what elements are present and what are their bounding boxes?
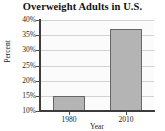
gridline	[40, 20, 154, 21]
y-axis-tick-label: 30%	[8, 46, 36, 54]
y-axis-tick-label: 15%	[8, 92, 36, 100]
y-axis-tick-label: 10%	[8, 107, 36, 115]
x-axis-spine	[39, 110, 155, 112]
y-axis-tick-label: 25%	[8, 62, 36, 70]
bar	[53, 96, 85, 111]
bar	[110, 29, 142, 111]
y-axis-tick-mark	[36, 111, 40, 112]
bar-chart-figure: Overweight Adults in U.S. Percent 10%15%…	[0, 0, 165, 131]
y-axis-tick-mark	[36, 96, 40, 97]
y-axis-tick-mark	[36, 81, 40, 82]
x-axis-title: Year	[40, 122, 154, 131]
plot-area	[40, 20, 154, 111]
y-axis-tick-label: 35%	[8, 31, 36, 39]
y-axis-tick-mark	[36, 66, 40, 67]
y-axis-tick-mark	[36, 50, 40, 51]
y-axis-tick-label: 40%	[8, 16, 36, 24]
y-axis-tick-mark	[36, 35, 40, 36]
y-axis-tick-labels: 10%15%20%25%30%35%40%	[8, 0, 36, 131]
y-axis-tick-mark	[36, 20, 40, 21]
y-axis-tick-label: 20%	[8, 77, 36, 85]
